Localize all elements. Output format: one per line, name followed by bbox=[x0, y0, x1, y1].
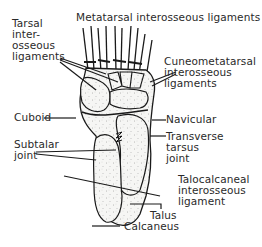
label-tarsal-interosseous-ligaments: Tarsal inter- osseous ligaments bbox=[12, 18, 65, 62]
label-calcaneus: Calcaneus bbox=[124, 221, 179, 232]
label-cuboid: Cuboid bbox=[14, 112, 51, 123]
label-metatarsal-interosseous-ligaments: Metatarsal interosseous ligaments bbox=[76, 12, 260, 23]
label-subtalar-joint: Subtalar joint bbox=[14, 139, 59, 161]
calcaneus-bone bbox=[94, 135, 123, 222]
label-talocalcaneal-interosseous-ligament: Talocalcaneal interosseous ligament bbox=[178, 174, 250, 207]
cuneiform-bones bbox=[108, 72, 144, 90]
navicular-bone bbox=[110, 89, 148, 109]
label-cuneometatarsal-interosseous-ligaments: Cuneometatarsal interosseous ligaments bbox=[164, 56, 256, 89]
label-transverse-tarsus-joint: Transverse tarsus joint bbox=[166, 131, 224, 164]
label-navicular: Navicular bbox=[166, 114, 216, 125]
